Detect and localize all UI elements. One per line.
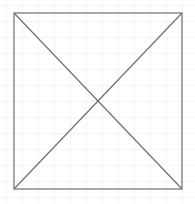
diagram-canvas [0, 0, 195, 204]
crossed-box-diagram [0, 0, 195, 204]
